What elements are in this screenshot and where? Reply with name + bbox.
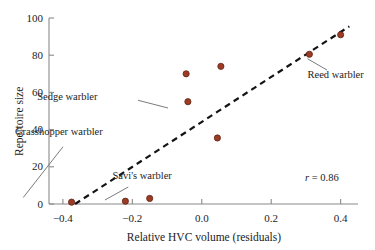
data-point — [147, 195, 153, 201]
data-point — [306, 51, 312, 57]
correlation-relation: = — [309, 172, 320, 183]
x-axis-tick-label: −0.2 — [112, 213, 152, 224]
y-axis-tick-label: 20 — [7, 161, 43, 172]
data-point — [214, 135, 220, 141]
x-axis-tick-label: 0.0 — [182, 213, 222, 224]
annotation-label: Reed warbler — [308, 70, 364, 81]
data-point — [183, 71, 189, 77]
figure-container: 020406080100 −0.4−0.20.00.20.4 Repertoir… — [0, 0, 375, 250]
data-point — [218, 63, 224, 69]
data-point — [185, 99, 191, 105]
annotation-label: Savi's warbler — [113, 171, 172, 182]
data-point — [68, 199, 74, 205]
y-axis-tick-label: 0 — [7, 199, 43, 210]
data-point — [338, 32, 344, 38]
axis-ticks — [49, 18, 341, 204]
x-axis-tick-label: 0.2 — [251, 213, 291, 224]
annotation-label: Grasshopper warbler — [15, 127, 103, 138]
annotation-label: Sedge warbler — [0, 92, 98, 103]
annotation-leader-line — [138, 100, 168, 108]
x-axis-tick-label: 0.4 — [321, 213, 361, 224]
x-axis-tick-label: −0.4 — [43, 213, 83, 224]
correlation-value: 0.86 — [320, 172, 338, 183]
y-axis-tick-label: 80 — [7, 50, 43, 61]
y-axis-tick-label: 100 — [7, 13, 43, 24]
data-point — [122, 198, 128, 204]
data-points — [68, 32, 343, 206]
x-axis-title: Relative HVC volume (residuals) — [108, 232, 300, 244]
correlation-annotation: r = 0.86 — [305, 173, 339, 184]
